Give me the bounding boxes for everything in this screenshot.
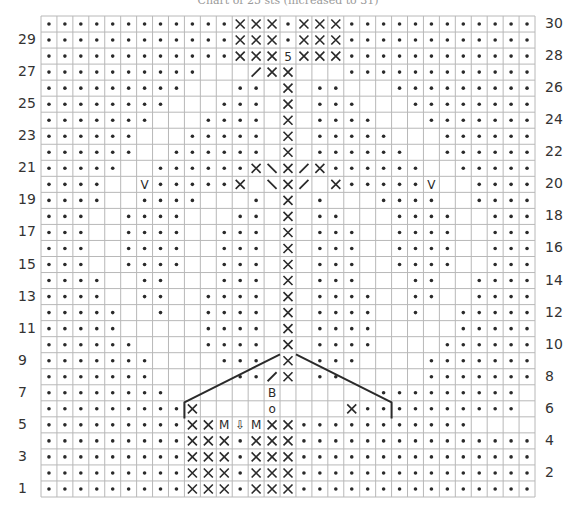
purl-dot: [398, 423, 402, 427]
purl-dot: [477, 279, 481, 283]
purl-dot: [159, 167, 163, 171]
purl-dot: [95, 150, 99, 154]
cross-stitch: [252, 484, 261, 493]
purl-dot: [350, 327, 354, 331]
purl-dot: [222, 183, 226, 187]
purl-dot: [334, 343, 338, 347]
purl-dot: [79, 102, 83, 106]
purl-dot: [398, 22, 402, 26]
purl-dot: [95, 70, 99, 74]
cross-stitch: [284, 116, 293, 125]
row-label-20: 20: [545, 175, 563, 191]
purl-dot: [461, 391, 465, 395]
purl-dot: [493, 359, 497, 363]
cross-stitch: [284, 356, 293, 365]
row-label-15: 15: [18, 256, 36, 272]
purl-dot: [525, 375, 529, 379]
purl-dot: [143, 247, 147, 251]
purl-dot: [461, 102, 465, 106]
cross-stitch: [284, 164, 293, 173]
purl-dot: [525, 455, 529, 459]
purl-dot: [366, 311, 370, 315]
purl-dot: [350, 455, 354, 459]
purl-dot: [398, 247, 402, 251]
purl-dot: [143, 263, 147, 267]
purl-dot: [207, 295, 211, 299]
purl-dot: [350, 359, 354, 363]
purl-dot: [79, 54, 83, 58]
purl-dot: [414, 423, 418, 427]
cross-stitch: [268, 68, 277, 77]
purl-dot: [47, 471, 51, 475]
cross-stitch: [284, 468, 293, 477]
purl-dot: [63, 134, 67, 138]
purl-dot: [79, 471, 83, 475]
purl-dot: [493, 391, 497, 395]
purl-dot: [509, 70, 513, 74]
purl-dot: [398, 150, 402, 154]
cross-stitch: [284, 196, 293, 205]
stitch-glyph: V: [140, 178, 149, 192]
purl-dot: [350, 118, 354, 122]
cross-stitch: [236, 20, 245, 29]
purl-dot: [350, 295, 354, 299]
cross-stitch: [268, 20, 277, 29]
purl-dot: [509, 471, 513, 475]
purl-dot: [47, 279, 51, 283]
purl-dot: [159, 487, 163, 491]
purl-dot: [79, 343, 83, 347]
row-label-27: 27: [18, 63, 36, 79]
purl-dot: [238, 359, 242, 363]
purl-dot: [446, 423, 450, 427]
purl-dot: [493, 247, 497, 251]
cross-stitch: [331, 36, 340, 45]
purl-dot: [95, 391, 99, 395]
purl-dot: [414, 38, 418, 42]
purl-dot: [302, 471, 306, 475]
cable-outlines: [184, 354, 391, 418]
purl-dot: [477, 295, 481, 299]
purl-dot: [63, 118, 67, 122]
purl-dot: [525, 70, 529, 74]
purl-dot: [191, 199, 195, 203]
purl-dot: [382, 54, 386, 58]
purl-dot: [509, 343, 513, 347]
purl-dot: [222, 38, 226, 42]
cross-stitch: [299, 36, 308, 45]
purl-dot: [159, 86, 163, 90]
purl-dot: [191, 22, 195, 26]
purl-dot: [143, 86, 147, 90]
purl-dot: [238, 279, 242, 283]
purl-dot: [238, 102, 242, 106]
purl-dot: [63, 215, 67, 219]
purl-dot: [254, 134, 258, 138]
purl-dot: [525, 327, 529, 331]
purl-dot: [47, 215, 51, 219]
cross-stitch: [220, 452, 229, 461]
purl-dot: [318, 199, 322, 203]
purl-dot: [207, 38, 211, 42]
purl-dot: [47, 311, 51, 315]
purl-dot: [95, 54, 99, 58]
purl-dot: [47, 22, 51, 26]
purl-dot: [477, 102, 481, 106]
purl-dot: [334, 311, 338, 315]
purl-dot: [398, 54, 402, 58]
purl-dot: [461, 167, 465, 171]
row-label-12: 12: [545, 304, 563, 320]
purl-dot: [477, 455, 481, 459]
purl-dot: [414, 199, 418, 203]
purl-dot: [334, 455, 338, 459]
purl-dot: [95, 343, 99, 347]
purl-dot: [350, 70, 354, 74]
purl-dot: [207, 150, 211, 154]
purl-dot: [382, 423, 386, 427]
purl-dot: [334, 102, 338, 106]
purl-dot: [238, 263, 242, 267]
purl-dot: [159, 295, 163, 299]
purl-dot: [446, 487, 450, 491]
purl-dot: [111, 455, 115, 459]
purl-dot: [47, 455, 51, 459]
purl-dot: [350, 134, 354, 138]
purl-dot: [398, 487, 402, 491]
